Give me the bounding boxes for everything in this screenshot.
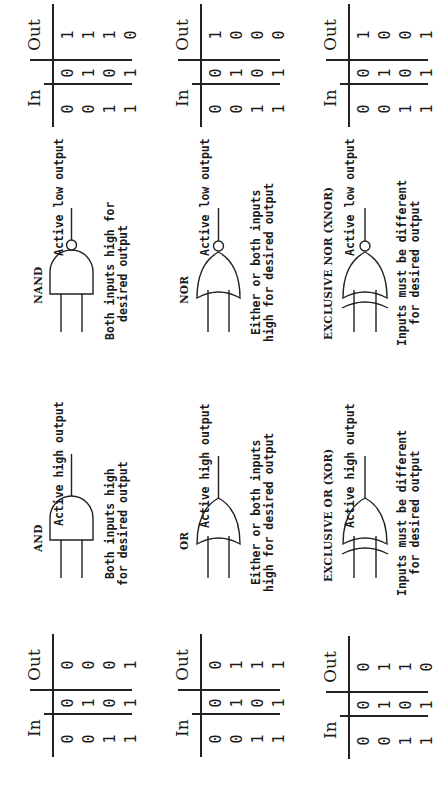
- nand-gate-block: NAND Active low output Both inputs high …: [0, 110, 150, 340]
- table-divider: [348, 4, 350, 127]
- gate-caption: Inputs must be different for desired out…: [396, 430, 422, 596]
- logic-gates-diagram: In Out 0011 0101 0001 AND Active high ou…: [0, 0, 448, 785]
- out-header: Out: [172, 649, 192, 681]
- output-column: 0110: [354, 657, 438, 677]
- table-divider: [52, 634, 54, 757]
- truth-table-nand: In Out 0011 0101 1110: [20, 4, 132, 129]
- input-b-column: 0101: [206, 693, 290, 713]
- table-divider: [52, 4, 54, 127]
- xor-gate-block: EXCLUSIVE OR (XOR) Active high output In…: [296, 360, 446, 590]
- in-header: In: [320, 89, 340, 107]
- input-b-column: 0101: [206, 63, 290, 83]
- table-divider: [340, 84, 428, 86]
- input-a-column: 0011: [58, 99, 142, 119]
- truth-table-xor: In Out 0011 0101 0110: [316, 636, 428, 761]
- xor-gate-icon: [296, 360, 446, 590]
- out-header: Out: [320, 651, 340, 683]
- out-header: Out: [24, 19, 44, 51]
- and-gate-block: AND Active high output Both inputs high …: [0, 360, 150, 590]
- table-divider: [44, 714, 132, 716]
- table-divider: [178, 690, 280, 692]
- output-label: Active low output: [52, 138, 66, 256]
- table-divider: [44, 84, 132, 86]
- truth-table-and: In Out 0011 0101 0001: [20, 634, 132, 759]
- input-b-column: 0101: [58, 693, 142, 713]
- table-divider: [30, 690, 132, 692]
- out-header: Out: [24, 649, 44, 681]
- output-label: Active high output: [52, 401, 66, 526]
- gate-caption: Both inputs high for desired output: [104, 202, 130, 340]
- gate-caption: Either or both inputs high for desired o…: [250, 433, 276, 592]
- table-divider: [326, 60, 428, 62]
- table-divider: [192, 714, 280, 716]
- gate-caption: Inputs must be different for desired out…: [396, 180, 422, 346]
- input-b-column: 0101: [58, 63, 142, 83]
- table-divider: [326, 692, 428, 694]
- gate-caption: Both inputs high for desired output: [104, 461, 130, 586]
- input-a-column: 0011: [206, 99, 290, 119]
- in-header: In: [172, 89, 192, 107]
- input-a-column: 0011: [354, 731, 438, 751]
- input-b-column: 0101: [354, 63, 438, 83]
- table-divider: [192, 84, 280, 86]
- output-label: Active high output: [343, 403, 357, 528]
- table-divider: [178, 60, 280, 62]
- gate-caption: Either or both inputs high for desired o…: [250, 183, 276, 342]
- xnor-gate-icon: [296, 110, 446, 340]
- nor-gate-block: NOR Active low output Either or both inp…: [148, 110, 298, 340]
- or-gate-block: OR Active high output Either or both inp…: [148, 360, 298, 590]
- input-a-column: 0011: [354, 99, 438, 119]
- output-column: 1110: [58, 25, 142, 45]
- gate-name: NAND: [32, 267, 44, 304]
- truth-table-xnor: In Out 0011 0101 1001: [316, 4, 428, 129]
- output-label: Active low output: [343, 138, 357, 256]
- out-header: Out: [172, 19, 192, 51]
- gate-name: EXCLUSIVE OR (XOR): [322, 449, 334, 583]
- xnor-gate-block: EXCLUSIVE NOR (XNOR) Active low output I…: [296, 110, 446, 340]
- output-label: Active low output: [198, 138, 212, 256]
- in-header: In: [24, 719, 44, 737]
- output-column: 0111: [206, 655, 290, 675]
- gate-name: OR: [178, 532, 190, 550]
- output-column: 0001: [58, 655, 142, 675]
- out-header: Out: [320, 19, 340, 51]
- gate-name: AND: [32, 525, 44, 552]
- gate-name: NOR: [178, 276, 190, 304]
- gate-name: EXCLUSIVE NOR (XNOR): [322, 187, 334, 340]
- truth-table-or: In Out 0011 0101 0111: [168, 634, 280, 759]
- input-a-column: 0011: [206, 729, 290, 749]
- output-label: Active high output: [198, 403, 212, 528]
- input-b-column: 0101: [354, 695, 438, 715]
- in-header: In: [24, 89, 44, 107]
- table-divider: [340, 716, 428, 718]
- output-column: 1000: [206, 25, 290, 45]
- output-column: 1001: [354, 25, 438, 45]
- truth-table-nor: In Out 0011 0101 1000: [168, 4, 280, 129]
- input-a-column: 0011: [58, 729, 142, 749]
- in-header: In: [320, 721, 340, 739]
- in-header: In: [172, 719, 192, 737]
- table-divider: [200, 4, 202, 127]
- table-divider: [30, 60, 132, 62]
- table-divider: [200, 634, 202, 757]
- table-divider: [348, 636, 350, 759]
